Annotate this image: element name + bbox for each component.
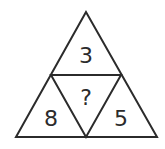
right-number: 5 <box>114 106 128 131</box>
top-number: 3 <box>79 43 93 68</box>
left-number: 8 <box>44 106 58 131</box>
triangle-puzzle: 3 ? 8 5 <box>0 0 165 149</box>
center-question-mark: ? <box>80 85 92 110</box>
